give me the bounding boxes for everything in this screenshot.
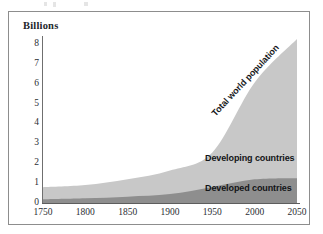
y-tick-3: 3 [17, 138, 39, 148]
series-label-developing-countries: Developing countries [205, 153, 295, 163]
figure-frame: Billions 012345678 175018001850190019502… [8, 11, 310, 225]
population-area-chart: Billions 012345678 175018001850190019502… [9, 12, 311, 226]
y-tick-6: 6 [17, 79, 39, 89]
x-axis-tick-labels: 1750180018501900195020002050 [9, 208, 311, 224]
scan-artifacts [0, 0, 323, 10]
x-axis-line [42, 203, 300, 204]
x-tick-1800: 1800 [76, 208, 95, 218]
x-tick-1850: 1850 [118, 208, 137, 218]
series-label-developed-countries: Developed countries [205, 183, 292, 193]
y-tick-8: 8 [17, 39, 39, 49]
x-tick-1950: 1950 [203, 208, 222, 218]
x-tick-1900: 1900 [161, 208, 180, 218]
y-tick-5: 5 [17, 99, 39, 109]
x-tick-2050: 2050 [288, 208, 307, 218]
y-tick-4: 4 [17, 118, 39, 128]
y-tick-1: 1 [17, 178, 39, 188]
x-tick-1750: 1750 [34, 208, 53, 218]
y-tick-2: 2 [17, 158, 39, 168]
y-tick-7: 7 [17, 59, 39, 69]
y-axis-tick-labels: 012345678 [9, 12, 39, 226]
x-tick-2000: 2000 [245, 208, 264, 218]
y-axis-line [42, 36, 43, 204]
